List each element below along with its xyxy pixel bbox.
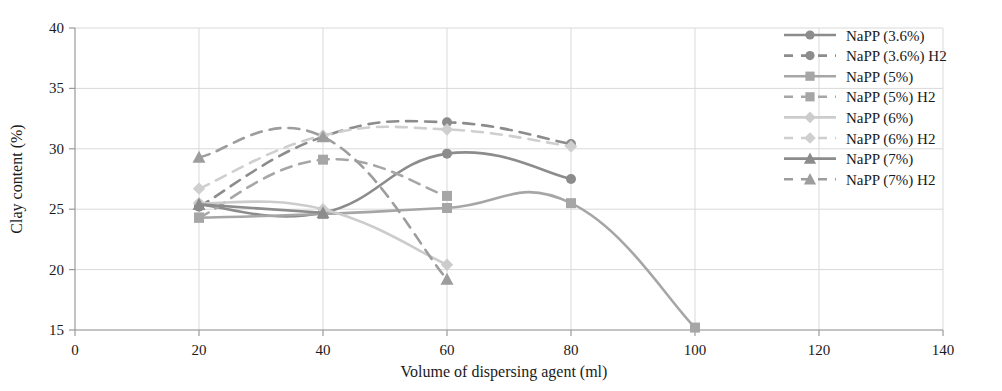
series-6	[193, 123, 577, 195]
legend-label: NaPP (3.6%)	[846, 28, 925, 45]
marker-square	[805, 92, 814, 101]
legend-label: NaPP (7%)	[846, 151, 913, 168]
x-tick-label: 60	[440, 342, 455, 358]
legend-label: NaPP (6%)	[846, 110, 913, 127]
marker-square	[566, 198, 576, 208]
chart-legend: NaPP (3.6%)NaPP (3.6%) H2NaPP (5%)NaPP (…	[784, 28, 947, 189]
chart-canvas: 152025303540020406080100120140 Volume of…	[0, 0, 1002, 391]
legend-item: NaPP (7%)	[784, 151, 913, 168]
legend-item: NaPP (5%)	[784, 69, 913, 86]
x-tick-label: 0	[71, 342, 79, 358]
marker-circle	[442, 149, 452, 159]
series-line-path	[199, 127, 571, 189]
legend-label: NaPP (6%) H2	[846, 131, 935, 148]
x-tick-label: 140	[932, 342, 955, 358]
legend-label: NaPP (7%) H2	[846, 172, 935, 189]
tick-label-layer: 152025303540020406080100120140	[49, 20, 954, 358]
marker-diamond	[804, 132, 816, 144]
y-tick-label: 35	[49, 80, 64, 96]
marker-circle	[805, 30, 814, 39]
x-axis-title: Volume of dispersing agent (ml)	[401, 363, 608, 381]
series-layer	[193, 117, 701, 332]
marker-square	[318, 155, 328, 165]
legend-item: NaPP (7%) H2	[784, 172, 935, 189]
y-tick-label: 20	[49, 262, 64, 278]
x-tick-label: 80	[564, 342, 579, 358]
legend-label: NaPP (3.6%) H2	[846, 48, 947, 65]
chart-figure: 152025303540020406080100120140 Volume of…	[0, 0, 1002, 391]
legend-label: NaPP (5%) H2	[846, 89, 935, 106]
marker-diamond	[441, 123, 453, 135]
legend-label: NaPP (5%)	[846, 69, 913, 86]
marker-diamond	[193, 182, 205, 194]
marker-square	[194, 213, 204, 223]
series-2	[194, 117, 576, 212]
marker-square	[442, 191, 452, 201]
legend-item: NaPP (6%) H2	[784, 131, 935, 148]
legend-item: NaPP (3.6%) H2	[784, 48, 947, 65]
marker-square	[690, 323, 700, 333]
marker-circle	[566, 174, 576, 184]
marker-square	[442, 203, 452, 213]
legend-item: NaPP (6%)	[784, 110, 913, 127]
x-tick-label: 120	[808, 342, 831, 358]
marker-circle	[805, 51, 814, 60]
marker-diamond	[804, 112, 816, 124]
y-axis-title: Clay content (%)	[8, 124, 26, 233]
y-tick-label: 15	[49, 322, 64, 338]
x-tick-label: 20	[192, 342, 207, 358]
y-tick-label: 25	[49, 201, 64, 217]
x-tick-label: 40	[316, 342, 331, 358]
legend-item: NaPP (3.6%)	[784, 28, 925, 45]
marker-square	[805, 72, 814, 81]
y-tick-label: 30	[49, 141, 64, 157]
legend-item: NaPP (5%) H2	[784, 89, 935, 106]
x-tick-label: 100	[684, 342, 707, 358]
y-tick-label: 40	[49, 20, 64, 36]
